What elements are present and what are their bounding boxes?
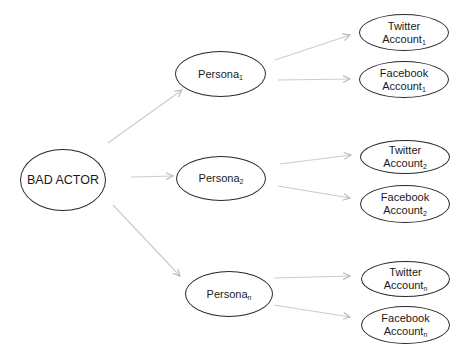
- edge-persona-n-facebook-n: [274, 305, 350, 317]
- facebook-1-node: Facebook Account1: [359, 61, 449, 98]
- twitter-n-node: Twitter Accountn: [361, 261, 450, 297]
- bad-actor-label: BAD ACTOR: [27, 174, 99, 187]
- facebook-n-line1: Facebook: [381, 312, 429, 325]
- edge-actor-persona-1: [108, 90, 182, 143]
- twitter-1-node: Twitter Account1: [359, 14, 449, 51]
- facebook-1-line1: Facebook: [380, 67, 428, 80]
- persona-n-node: Personan: [185, 271, 273, 317]
- twitter-n-line1: Twitter: [389, 266, 421, 279]
- facebook-2-line1: Facebook: [381, 191, 429, 204]
- facebook-2-node: Facebook Account2: [360, 185, 450, 223]
- edge-persona-n-twitter-n: [274, 276, 350, 278]
- facebook-2-line2: Account2: [383, 204, 427, 217]
- twitter-2-line2: Account2: [383, 157, 427, 170]
- persona-1-label: Persona1: [198, 68, 243, 81]
- edge-persona-1-twitter-1: [275, 35, 350, 60]
- persona-2-node: Persona2: [176, 156, 266, 201]
- persona-1-node: Persona1: [175, 51, 266, 97]
- persona-n-label: Personan: [207, 288, 252, 301]
- edge-persona-2-facebook-2: [278, 186, 350, 198]
- twitter-1-line1: Twitter: [388, 20, 420, 33]
- twitter-2-line1: Twitter: [389, 144, 421, 157]
- twitter-n-line2: Accountn: [384, 279, 428, 292]
- facebook-1-line2: Account1: [382, 80, 426, 93]
- facebook-n-node: Facebook Accountn: [361, 306, 450, 344]
- edge-actor-persona-2: [131, 176, 173, 177]
- edge-persona-1-facebook-1: [278, 79, 350, 80]
- edge-actor-persona-n: [113, 205, 180, 276]
- persona-2-label: Persona2: [199, 172, 244, 185]
- bad-actor-node: BAD ACTOR: [20, 149, 106, 211]
- twitter-2-node: Twitter Account2: [360, 140, 450, 174]
- twitter-1-line2: Account1: [382, 33, 426, 46]
- facebook-n-line2: Accountn: [384, 325, 428, 338]
- edge-persona-2-twitter-2: [280, 155, 351, 164]
